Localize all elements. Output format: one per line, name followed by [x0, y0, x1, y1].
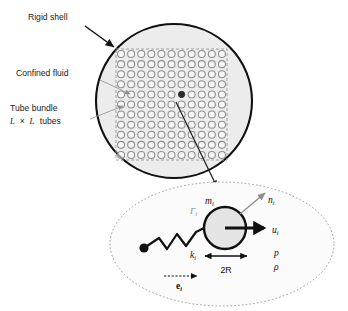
tube-circle: [198, 81, 205, 88]
confined-fluid-label: Confined fluid: [16, 68, 69, 78]
tube-circle: [128, 101, 135, 108]
tube-circle: [208, 81, 215, 88]
tube-circle: [118, 121, 125, 128]
tube-bundle-label: Tube bundle: [10, 103, 58, 113]
tube-circle: [178, 61, 185, 68]
tube-circle: [218, 131, 225, 138]
tube-circle: [198, 121, 205, 128]
tube-circle: [118, 151, 125, 158]
tube-circle: [148, 81, 155, 88]
tube-circle: [148, 111, 155, 118]
tube-circle: [208, 51, 215, 58]
tube-circle: [168, 91, 175, 98]
tube-circle: [138, 81, 145, 88]
tube-circle: [118, 111, 125, 118]
tube-circle: [138, 131, 145, 138]
tube-circle: [198, 131, 205, 138]
tube-circle: [178, 51, 185, 58]
tube-circle: [148, 61, 155, 68]
tube-circle: [118, 61, 125, 68]
density-label: ρ: [273, 261, 279, 272]
tube-circle: [158, 121, 165, 128]
tube-circle: [208, 111, 215, 118]
mass-sub: i: [212, 200, 214, 207]
tube-circle: [148, 91, 155, 98]
tube-circle: [218, 121, 225, 128]
tube-circle: [218, 71, 225, 78]
tube-circle: [128, 121, 135, 128]
tube-circle: [138, 51, 145, 58]
tube-circle: [178, 101, 185, 108]
tube-circle: [168, 81, 175, 88]
tube-circle: [168, 131, 175, 138]
tube-circle: [158, 61, 165, 68]
tube-circle: [118, 51, 125, 58]
pressure-label: p: [273, 247, 279, 258]
tube-circle: [198, 71, 205, 78]
tube-grid: [118, 51, 226, 159]
tube-circle: [218, 81, 225, 88]
tube-circle: [138, 71, 145, 78]
stiffness-sub: i: [194, 254, 196, 261]
tube-circle: [178, 121, 185, 128]
tube-circle: [168, 51, 175, 58]
tube-circle: [188, 101, 195, 108]
tube-circle: [128, 81, 135, 88]
tube-circle: [208, 71, 215, 78]
tube-circle: [198, 141, 205, 148]
tube-circle: [168, 151, 175, 158]
tube-circle: [188, 71, 195, 78]
rigid-shell-label: Rigid shell: [28, 12, 68, 22]
tube-circle: [188, 121, 195, 128]
tube-circle: [118, 131, 125, 138]
tube-circle: [138, 121, 145, 128]
tube-circle: [158, 71, 165, 78]
tube-circle: [168, 121, 175, 128]
tube-circle: [158, 141, 165, 148]
tube-circle: [118, 91, 125, 98]
l-symbol-2: L: [29, 116, 35, 126]
tube-circle: [158, 111, 165, 118]
tube-circle: [218, 151, 225, 158]
tube-circle: [198, 91, 205, 98]
tube-circle: [188, 141, 195, 148]
tube-circle: [208, 101, 215, 108]
shell-assembly: [96, 24, 252, 178]
tube-circle: [158, 91, 165, 98]
tube-circle: [158, 151, 165, 158]
tube-circle: [218, 111, 225, 118]
tube-circle: [178, 131, 185, 138]
tube-circle: [138, 151, 145, 158]
rigid-shell-arrow: [85, 26, 114, 47]
tube-circle: [118, 81, 125, 88]
tube-circle: [168, 61, 175, 68]
tube-circle: [118, 71, 125, 78]
tube-circle: [188, 61, 195, 68]
tube-circle: [208, 91, 215, 98]
tube-circle: [128, 151, 135, 158]
tube-circle: [208, 141, 215, 148]
tube-circle: [168, 111, 175, 118]
tube-bundle-diagram: Rigid shell Confined fluid Tube bundle L…: [0, 0, 348, 311]
figure-container: Rigid shell Confined fluid Tube bundle L…: [0, 0, 348, 311]
tube-circle: [138, 141, 145, 148]
tube-circle: [178, 141, 185, 148]
tube-circle: [158, 81, 165, 88]
tube-circle: [218, 61, 225, 68]
tube-circle: [128, 61, 135, 68]
tube-circle: [168, 141, 175, 148]
tube-circle: [148, 131, 155, 138]
tube-circle: [158, 101, 165, 108]
tube-circle: [178, 71, 185, 78]
tube-circle: [168, 71, 175, 78]
tube-circle: [158, 51, 165, 58]
tube-circle: [158, 131, 165, 138]
velocity-sub: i: [277, 229, 279, 236]
tube-circle: [198, 51, 205, 58]
tube-circle: [168, 101, 175, 108]
tube-circle: [208, 61, 215, 68]
tube-circle: [138, 91, 145, 98]
tube-circle: [148, 71, 155, 78]
mass-base: m: [205, 195, 212, 206]
tube-circle: [188, 81, 195, 88]
